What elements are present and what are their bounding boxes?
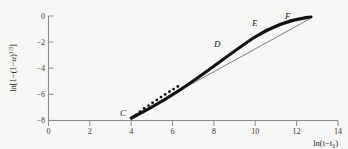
x-tick-label-8: 8 xyxy=(212,127,216,136)
x-tick-label-2: 2 xyxy=(88,127,92,136)
y-tick-label-m6: −6 xyxy=(36,90,45,99)
annotation-label-f: F xyxy=(284,11,291,21)
x-axis-ticks xyxy=(49,121,339,127)
y-tick-label-m8: −8 xyxy=(36,116,45,125)
annotation-label-d: D xyxy=(213,39,221,49)
y-axis-tick-labels: 0 −2 −4 −6 −8 xyxy=(36,12,45,125)
svg-text:ln[1−(1−α)1/3]: ln[1−(1−α)1/3] xyxy=(8,44,18,92)
x-tick-label-4: 4 xyxy=(129,127,133,136)
y-axis-ticks xyxy=(49,16,54,120)
x-axis-title: ln(t−t₀) xyxy=(313,138,338,148)
data-point xyxy=(164,93,167,96)
data-point xyxy=(172,88,175,91)
data-point xyxy=(168,90,171,93)
x-tick-label-14: 14 xyxy=(334,127,342,136)
data-point xyxy=(147,104,150,107)
x-tick-label-10: 10 xyxy=(251,127,259,136)
data-point xyxy=(151,101,154,104)
y-axis-title-suffix: ] xyxy=(8,44,18,47)
y-tick-label-m4: −4 xyxy=(36,64,45,73)
data-point xyxy=(134,113,137,116)
data-point xyxy=(130,117,133,120)
data-point xyxy=(155,99,158,102)
annotation-label-c: C xyxy=(120,108,127,118)
plot-area: 0 −2 −4 −6 −8 0 2 4 6 8 10 12 14 xyxy=(0,0,348,149)
x-tick-label-6: 6 xyxy=(171,127,175,136)
data-point xyxy=(160,96,163,99)
y-tick-label-0: 0 xyxy=(41,12,45,21)
y-axis-title-prefix: ln[1−(1− xyxy=(8,61,18,92)
chart-figure: 0 −2 −4 −6 −8 0 2 4 6 8 10 12 14 xyxy=(0,0,348,149)
y-axis-title: ln[1−(1−α)1/3] xyxy=(8,44,18,92)
annotation-label-e: E xyxy=(251,18,258,28)
x-tick-label-0: 0 xyxy=(47,127,51,136)
y-tick-label-m2: −2 xyxy=(36,38,45,47)
x-tick-label-12: 12 xyxy=(293,127,301,136)
data-point xyxy=(143,107,146,110)
x-axis-tick-labels: 0 2 4 6 8 10 12 14 xyxy=(47,127,343,136)
data-point xyxy=(139,110,142,113)
data-point xyxy=(176,85,179,88)
